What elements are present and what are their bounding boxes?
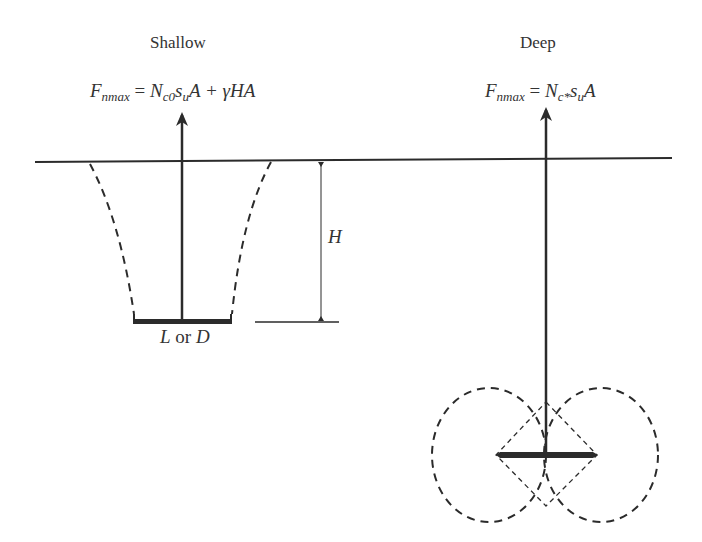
width-label-or: or [171,326,196,347]
formula-rest: A [584,80,596,101]
deep-anchor [432,107,658,522]
width-label-d: D [196,326,210,347]
depth-label: H [328,226,342,248]
anchor-uplift-diagram: Shallow Fnmax = Nc0suA + γHA L or D H De… [0,0,702,542]
formula-eq: = [130,80,150,101]
shallow-anchor [90,112,339,324]
formula-rest: A + γHA [189,80,255,101]
formula-n: N [545,80,558,101]
ground-surface-line [35,158,672,162]
formula-eq: = [525,80,545,101]
shallow-failure-surface-right [232,162,271,314]
deep-formula: Fnmax = Nc*suA [485,80,595,102]
formula-lhs: F [485,80,497,101]
deep-plate [496,452,598,458]
formula-n-sub: c* [558,89,570,104]
formula-lhs-sub: nmax [497,89,525,104]
formula-lhs: F [90,80,102,101]
shallow-plate [133,319,232,324]
shallow-formula: Fnmax = Nc0suA + γHA [90,80,255,102]
formula-n-sub: c0 [163,89,175,104]
shallow-title: Shallow [150,33,206,53]
shallow-failure-surface-left [90,164,134,314]
deep-title: Deep [520,33,556,53]
formula-lhs-sub: nmax [102,89,130,104]
formula-n: N [150,80,163,101]
width-label-l: L [160,326,171,347]
width-label: L or D [160,326,210,348]
